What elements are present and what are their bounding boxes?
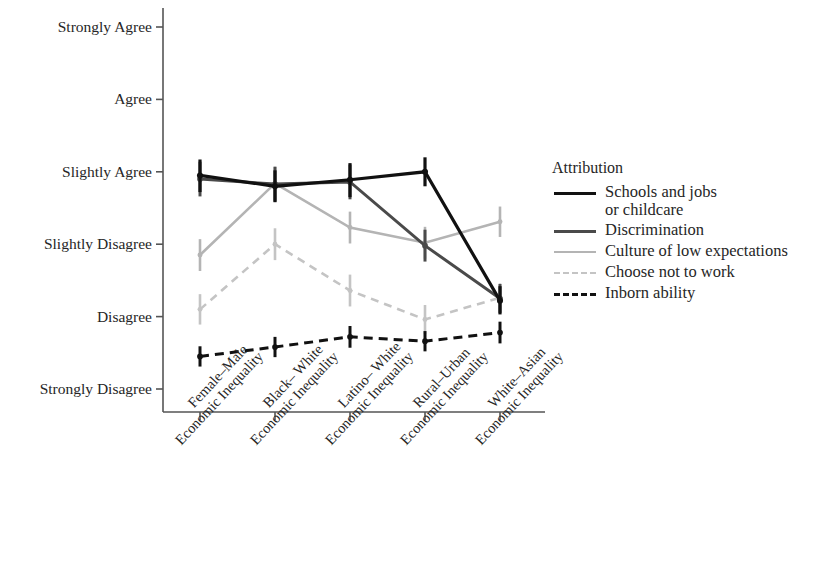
- legend-item-0[interactable]: Schools and jobsor childcare: [552, 183, 821, 220]
- data-point: [198, 253, 203, 258]
- data-point: [273, 242, 278, 247]
- y-axis-tick-label: Disagree: [97, 309, 152, 325]
- legend: Attribution Schools and jobsor childcare…: [552, 160, 821, 305]
- legend-item-4[interactable]: Inborn ability: [552, 284, 821, 304]
- data-point: [347, 334, 353, 340]
- data-point: [198, 307, 203, 312]
- data-point: [348, 288, 353, 293]
- legend-item-label: Culture of low expectations: [605, 242, 788, 260]
- data-point: [197, 354, 203, 360]
- legend-title: Attribution: [552, 160, 821, 176]
- series-3: [198, 228, 503, 334]
- y-axis-tick-label: Strongly Agree: [58, 19, 152, 35]
- y-axis-tick-label: Slightly Disagree: [44, 236, 152, 252]
- data-point: [422, 169, 428, 175]
- data-point: [422, 338, 428, 344]
- data-point: [197, 172, 203, 178]
- data-point: [497, 298, 503, 304]
- y-axis-tick-label: Strongly Disagree: [40, 381, 152, 397]
- legend-item-3[interactable]: Choose not to work: [552, 263, 821, 283]
- legend-line-swatch: [552, 221, 598, 241]
- legend-entries: Schools and jobsor childcareDiscriminati…: [552, 183, 821, 304]
- attribution-line-chart: Strongly DisagreeDisagreeSlightly Disagr…: [0, 0, 821, 583]
- data-point: [347, 177, 353, 183]
- data-point: [348, 225, 353, 230]
- legend-line-swatch: [552, 263, 598, 283]
- data-point: [272, 344, 278, 350]
- legend-item-label: Discrimination: [605, 221, 704, 239]
- data-point: [423, 317, 428, 322]
- legend-item-label: Choose not to work: [605, 263, 735, 281]
- legend-line-swatch: [552, 183, 598, 203]
- data-point: [422, 243, 428, 249]
- data-point: [272, 183, 278, 189]
- legend-item-label: Inborn ability: [605, 284, 695, 302]
- y-axis-tick-label: Agree: [114, 91, 152, 107]
- y-axis-tick-label: Slightly Agree: [62, 164, 152, 180]
- legend-line-swatch: [552, 242, 598, 262]
- legend-item-label: Schools and jobsor childcare: [605, 183, 717, 220]
- legend-line-swatch: [552, 284, 598, 304]
- data-point: [498, 219, 503, 224]
- legend-item-1[interactable]: Discrimination: [552, 221, 821, 241]
- data-point: [497, 330, 503, 336]
- legend-item-2[interactable]: Culture of low expectations: [552, 242, 821, 262]
